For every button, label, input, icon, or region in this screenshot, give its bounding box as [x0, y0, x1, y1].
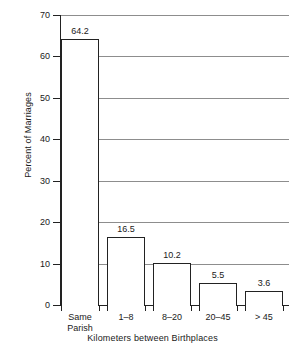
- bar-8-20[interactable]: [153, 263, 191, 306]
- y-tick-label-60: 60: [24, 51, 50, 61]
- bar-1-8[interactable]: [107, 237, 145, 306]
- bar-value-20-45: 5.5: [195, 270, 241, 280]
- x-tick-label-same-parish-line2: Parish: [57, 323, 103, 334]
- x-tick-6: [199, 305, 200, 311]
- x-tick-1: [99, 305, 100, 311]
- x-tick-2: [107, 305, 108, 311]
- y-tick-30: [53, 181, 60, 182]
- y-tick-label-0: 0: [24, 300, 50, 310]
- x-tick-0: [61, 305, 62, 311]
- x-tick-label-same-parish: Same Parish: [57, 312, 103, 333]
- y-tick-10: [53, 264, 60, 265]
- bar-over-45[interactable]: [245, 291, 283, 306]
- x-tick-9: [283, 305, 284, 311]
- x-tick-label-20-45: 20–45: [195, 312, 241, 323]
- x-tick-3: [145, 305, 146, 311]
- x-tick-label-over-45: > 45: [241, 312, 287, 323]
- chart-figure: Percent of Marriages 70 60 50 40 30 20 1…: [0, 0, 305, 351]
- y-tick-70: [53, 15, 60, 16]
- y-tick-60: [53, 56, 60, 57]
- x-tick-5: [191, 305, 192, 311]
- y-tick-20: [53, 222, 60, 223]
- bar-value-8-20: 10.2: [149, 250, 195, 260]
- x-tick-label-1-8-line1: 1–8: [103, 312, 149, 323]
- bar-same-parish[interactable]: [61, 39, 99, 306]
- x-tick-label-20-45-line1: 20–45: [195, 312, 241, 323]
- bar-value-same-parish: 64.2: [57, 26, 103, 36]
- y-tick-label-20: 20: [24, 217, 50, 227]
- x-tick-8: [245, 305, 246, 311]
- x-tick-label-1-8: 1–8: [103, 312, 149, 323]
- x-tick-label-8-20: 8–20: [149, 312, 195, 323]
- x-axis-title: Kilometers between Birthplaces: [0, 333, 305, 343]
- gridline-70: [60, 15, 289, 16]
- bar-value-1-8: 16.5: [103, 224, 149, 234]
- x-tick-label-8-20-line1: 8–20: [149, 312, 195, 323]
- y-tick-label-40: 40: [24, 134, 50, 144]
- y-tick-50: [53, 98, 60, 99]
- y-tick-40: [53, 139, 60, 140]
- bar-20-45[interactable]: [199, 283, 237, 306]
- y-tick-0: [53, 305, 60, 306]
- x-tick-label-same-parish-line1: Same: [57, 312, 103, 323]
- bar-value-over-45: 3.6: [241, 278, 287, 288]
- x-tick-7: [237, 305, 238, 311]
- x-tick-label-over-45-line1: > 45: [241, 312, 287, 323]
- x-tick-4: [153, 305, 154, 311]
- y-tick-label-50: 50: [24, 93, 50, 103]
- y-tick-label-10: 10: [24, 259, 50, 269]
- y-tick-label-70: 70: [24, 10, 50, 20]
- y-tick-label-30: 30: [24, 176, 50, 186]
